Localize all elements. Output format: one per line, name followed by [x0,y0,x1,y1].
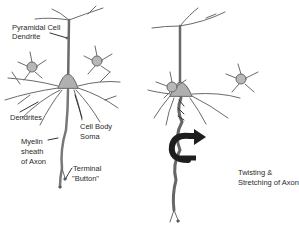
label-cell-body: Cell Body [80,122,112,131]
label-stretching-of-axon: Stretching of Axon [238,178,299,187]
label-myelin: Myelin [21,137,43,146]
label-twisting: Twisting & [238,168,272,177]
label-sheath: sheath [21,147,44,156]
label-pyramidal-cell: Pyramidal Cell [12,23,60,32]
label-dendrites: Dendrites [10,113,42,122]
neuron-diagram: Pyramidal Cell Dendrite Dendrites Cell B… [0,0,299,228]
label-of-axon: of Axon [21,157,46,166]
label-button: "Button" [72,174,99,183]
label-soma: Soma [80,132,100,141]
label-terminal: Terminal [73,164,101,173]
neuron-illustration [0,0,299,228]
right-pyramidal-neuron [148,8,258,222]
label-dendrite: Dendrite [12,32,40,41]
